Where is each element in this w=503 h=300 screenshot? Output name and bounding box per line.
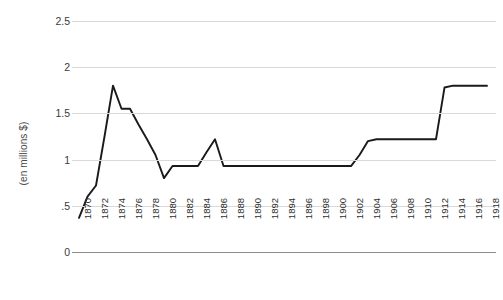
x-axis-tick-label: 1884 bbox=[202, 198, 212, 258]
x-axis-tick-label: 1912 bbox=[440, 198, 450, 258]
x-axis-tick-label: 1914 bbox=[457, 198, 467, 258]
gridline bbox=[72, 21, 496, 22]
x-axis-tick-label: 1908 bbox=[406, 198, 416, 258]
x-axis-tick-label: 1896 bbox=[304, 198, 314, 258]
y-axis-tick-label: 0 bbox=[30, 247, 70, 258]
x-axis-tick-label: 1888 bbox=[236, 198, 246, 258]
x-axis-tick-label: 1892 bbox=[270, 198, 280, 258]
x-axis-tick-label: 1902 bbox=[355, 198, 365, 258]
x-axis-tick-label: 1880 bbox=[168, 198, 178, 258]
y-axis-tick-label: 2 bbox=[30, 62, 70, 73]
x-axis-tick-label: 1900 bbox=[338, 198, 348, 258]
x-axis-tick-label: 1918 bbox=[491, 198, 501, 258]
x-axis-tick-label: 1878 bbox=[151, 198, 161, 258]
x-axis-tick-label: 1872 bbox=[100, 198, 110, 258]
gridline bbox=[72, 160, 496, 161]
y-axis-tick-label: 1 bbox=[30, 155, 70, 166]
x-axis-tick-label: 1894 bbox=[287, 198, 297, 258]
x-axis-tick-label: 1886 bbox=[219, 198, 229, 258]
y-axis-title: (en millions $) bbox=[18, 89, 29, 219]
y-axis-tick-label: 1.5 bbox=[30, 108, 70, 119]
x-axis-tick-label: 1898 bbox=[321, 198, 331, 258]
x-axis-tick-label: 1906 bbox=[389, 198, 399, 258]
y-axis-tick-label: 2.5 bbox=[30, 16, 70, 27]
x-axis-tick-label: 1882 bbox=[185, 198, 195, 258]
x-axis-tick-label: 1916 bbox=[474, 198, 484, 258]
line-chart: (en millions $) 0.511.522.5 187018721874… bbox=[0, 0, 503, 300]
x-axis-tick-label: 1910 bbox=[423, 198, 433, 258]
gridline bbox=[72, 113, 496, 114]
x-axis-tick-label: 1870 bbox=[83, 198, 93, 258]
y-axis-tick-labels: 0.511.522.5 bbox=[28, 0, 70, 300]
gridline bbox=[72, 67, 496, 68]
y-axis-tick-label: .5 bbox=[30, 201, 70, 212]
x-axis-tick-label: 1890 bbox=[253, 198, 263, 258]
x-axis-tick-label: 1904 bbox=[372, 198, 382, 258]
x-axis-tick-label: 1874 bbox=[117, 198, 127, 258]
y-axis-title-wrap: (en millions $) bbox=[0, 0, 30, 300]
x-axis-tick-label: 1876 bbox=[134, 198, 144, 258]
